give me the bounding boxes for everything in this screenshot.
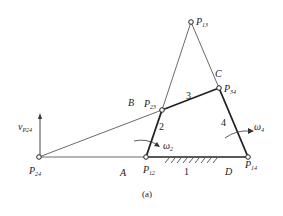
label-link-1: 1 [184,166,189,177]
pivot-p34 [217,86,222,91]
line-p24-p23 [39,110,162,157]
pivot-p23 [160,108,165,113]
label-p14: P14 [244,159,257,171]
label-link-4: 4 [221,117,226,128]
label-joint-a: A [119,167,127,178]
label-p12: P12 [142,164,155,176]
label-p23: P23 [143,98,156,110]
pivot-p13 [189,20,194,25]
link-2 [146,110,162,157]
velocity-arrow-icon [38,113,42,157]
label-p34: P34 [223,83,236,95]
omega2-arc-icon [134,140,160,147]
pivot-p24 [37,155,42,160]
pivot-p12 [144,155,149,160]
label-omega2: ω2 [163,140,173,152]
label-joint-b: B [128,97,134,108]
label-link-3: 3 [186,90,191,101]
label-velocity-p24: vP24 [18,121,32,133]
label-joint-c: C [215,68,222,79]
figure-caption: (a) [142,189,152,199]
label-joint-d: D [224,166,233,177]
linkage-svg: P13 P34 P23 P12 P14 P24 A B C D 1 2 3 4 … [0,0,283,216]
label-p24: P24 [28,165,41,177]
label-p13: P13 [195,16,208,28]
ground-hatch [165,158,217,163]
label-omega4: ω4 [254,121,264,133]
label-link-2: 2 [159,121,164,132]
four-bar-linkage-diagram: P13 P34 P23 P12 P14 P24 A B C D 1 2 3 4 … [0,0,283,216]
